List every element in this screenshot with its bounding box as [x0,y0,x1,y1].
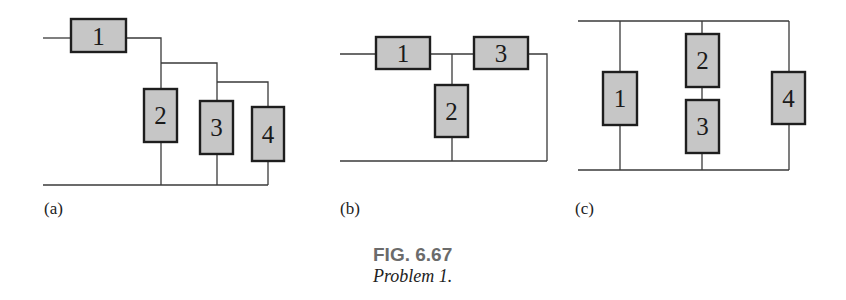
resistor-b-1: 1 [376,37,430,69]
resistor-label: 4 [262,121,275,148]
resistor-label: 4 [782,85,795,112]
resistor-a-3: 3 [200,101,233,154]
figure-canvas: 1 2 3 4 (a) 1 2 3 [0,0,846,300]
resistor-b-3: 3 [474,37,528,69]
resistor-c-3: 3 [686,100,719,153]
resistor-label: 1 [614,85,627,112]
resistor-label: 2 [696,47,709,74]
figure-number: FIG. 6.67 [373,244,452,265]
resistor-label: 2 [154,102,167,129]
resistor-a-1: 1 [71,19,126,52]
figure-caption: Problem 1. [372,266,452,286]
circuit-a: 1 2 3 4 (a) [43,19,284,218]
wire-a-r1-to-r2 [126,38,161,89]
subfigure-label-c: (c) [575,199,594,218]
resistor-label: 3 [696,113,709,140]
resistor-label: 2 [445,98,458,125]
wire-b-r3-right [528,54,547,161]
subfigure-label-b: (b) [340,199,360,218]
resistor-label: 3 [495,40,508,67]
resistor-b-2: 2 [435,85,468,137]
circuit-c: 1 2 3 4 (c) [575,21,805,218]
circuit-b: 1 2 3 (b) [340,37,547,218]
resistor-label: 1 [397,40,410,67]
resistor-c-1: 1 [603,72,637,125]
resistor-a-4: 4 [252,107,284,161]
resistor-c-2: 2 [686,34,719,87]
subfigure-label-a: (a) [44,199,63,218]
resistor-label: 3 [210,114,223,141]
resistor-a-2: 2 [144,89,177,142]
resistor-label: 1 [92,23,105,50]
resistor-c-4: 4 [772,72,805,124]
